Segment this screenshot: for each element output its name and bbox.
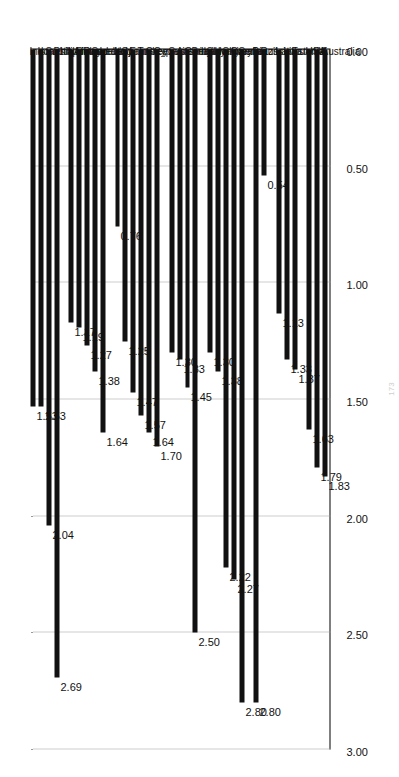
bar [215, 49, 220, 371]
bar-item [185, 49, 190, 749]
tick-label: 2.00 [346, 512, 367, 524]
bar-item [284, 49, 289, 749]
bar [276, 49, 281, 313]
rotated-figure: 3.002.502.001.501.000.500.00 1.531.532.0… [0, 0, 399, 777]
bar-item [215, 49, 220, 749]
bar [207, 49, 212, 352]
bar-item [177, 49, 182, 749]
tick-label: 1.50 [346, 395, 367, 407]
tick-label: 0.50 [346, 162, 367, 174]
bar [314, 49, 319, 467]
bar [92, 49, 97, 371]
bar-item [84, 49, 89, 749]
bar [239, 49, 244, 702]
bar [122, 49, 127, 341]
bar-item [261, 49, 266, 749]
bar [177, 49, 182, 359]
bar-item [314, 49, 319, 749]
bar-item [68, 49, 73, 749]
bar [223, 49, 228, 567]
bar [38, 49, 43, 406]
bar [261, 49, 266, 175]
category-label: Australia [321, 45, 360, 56]
bar [284, 49, 289, 359]
tick-label: 3.00 [346, 745, 367, 757]
bar [169, 49, 174, 352]
bar [146, 49, 151, 432]
bar-item [207, 49, 212, 749]
bar-item [146, 49, 151, 749]
bar-item [46, 49, 51, 749]
tick-label: 2.50 [346, 628, 367, 640]
bar [130, 49, 135, 392]
bar [84, 49, 89, 345]
bar-value-label: 1.83 [328, 479, 349, 491]
bar [292, 49, 297, 369]
bar [138, 49, 143, 415]
bar-item [76, 49, 81, 749]
bar [306, 49, 311, 429]
bar-item [30, 49, 35, 749]
bar-item [100, 49, 105, 749]
bar [192, 49, 197, 632]
bar [54, 49, 59, 677]
bar-item [38, 49, 43, 749]
bar [100, 49, 105, 432]
bar [231, 49, 236, 579]
bar-item [292, 49, 297, 749]
bar-item [138, 49, 143, 749]
bar-item [92, 49, 97, 749]
bar-item [192, 49, 197, 749]
bar [185, 49, 190, 387]
bar-item [115, 49, 120, 749]
page-mark: 173 [386, 0, 395, 777]
bar [76, 49, 81, 327]
bar-item [154, 49, 159, 749]
bar [322, 49, 327, 476]
bar-item [322, 49, 327, 749]
bar-item [54, 49, 59, 749]
bar-item [223, 49, 228, 749]
bar [68, 49, 73, 322]
bar-item [276, 49, 281, 749]
bar-item [253, 49, 258, 749]
bar-item [306, 49, 311, 749]
bar-item [231, 49, 236, 749]
bar-item [169, 49, 174, 749]
bar-item [130, 49, 135, 749]
bar [154, 49, 159, 446]
bar [253, 49, 258, 702]
bar-item [239, 49, 244, 749]
tick-label: 1.00 [346, 278, 367, 290]
bar-item [122, 49, 127, 749]
bar [46, 49, 51, 525]
bar [30, 49, 35, 406]
chart-page: 3.002.502.001.501.000.500.00 1.531.532.0… [0, 0, 399, 777]
plot-area: 3.002.502.001.501.000.500.00 1.531.532.0… [30, 49, 330, 749]
bar [115, 49, 120, 226]
bar-series: 1.531.532.042.691.171.191.271.381.640.76… [30, 49, 330, 749]
